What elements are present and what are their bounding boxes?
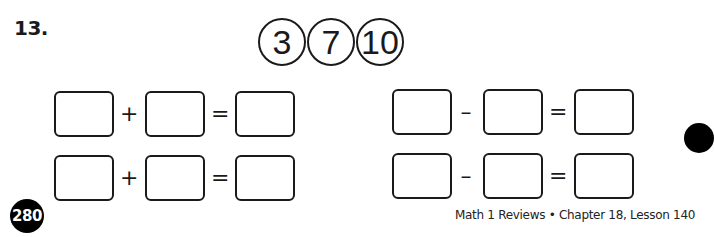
equals-sign: = bbox=[211, 91, 229, 137]
answer-box[interactable] bbox=[235, 155, 295, 201]
answer-box[interactable] bbox=[54, 91, 114, 137]
minus-sign: – bbox=[457, 153, 475, 199]
number-bank-item: 3 bbox=[258, 18, 306, 66]
answer-box[interactable] bbox=[54, 155, 114, 201]
answer-box[interactable] bbox=[235, 91, 295, 137]
minus-sign: – bbox=[457, 89, 475, 135]
answer-box[interactable] bbox=[392, 89, 452, 135]
answer-box[interactable] bbox=[145, 91, 205, 137]
equals-sign: = bbox=[549, 153, 567, 199]
problem-number: 13. bbox=[14, 16, 48, 40]
answer-box[interactable] bbox=[483, 89, 543, 135]
answer-box[interactable] bbox=[145, 155, 205, 201]
equals-sign: = bbox=[211, 155, 229, 201]
answer-box[interactable] bbox=[483, 153, 543, 199]
page-number-badge: 280 bbox=[10, 199, 44, 233]
answer-box[interactable] bbox=[574, 153, 634, 199]
number-bank-item: 10 bbox=[356, 18, 404, 66]
footer-text: Math 1 Reviews • Chapter 18, Lesson 140 bbox=[455, 208, 695, 222]
plus-sign: + bbox=[120, 155, 138, 201]
answer-box[interactable] bbox=[392, 153, 452, 199]
bullet-dot-icon bbox=[684, 123, 714, 153]
plus-sign: + bbox=[120, 91, 138, 137]
answer-box[interactable] bbox=[574, 89, 634, 135]
equals-sign: = bbox=[549, 89, 567, 135]
number-bank-item: 7 bbox=[307, 18, 355, 66]
